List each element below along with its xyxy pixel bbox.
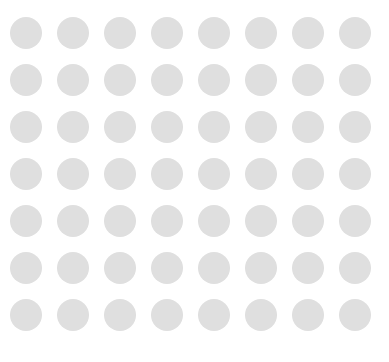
grid-circle [292, 252, 324, 284]
grid-circle [10, 158, 42, 190]
grid-circle [104, 205, 136, 237]
grid-circle [198, 64, 230, 96]
grid-circle [339, 252, 371, 284]
grid-circle [198, 252, 230, 284]
grid-circle [57, 64, 89, 96]
grid-circle [151, 299, 183, 331]
grid-circle [339, 64, 371, 96]
grid-circle [151, 111, 183, 143]
grid-circle [57, 205, 89, 237]
grid-circle [339, 17, 371, 49]
circle-grid-canvas [0, 0, 389, 362]
grid-circle [292, 205, 324, 237]
grid-circle [104, 17, 136, 49]
grid-circle [245, 299, 277, 331]
grid-circle [245, 205, 277, 237]
grid-circle [292, 158, 324, 190]
grid-circle [10, 64, 42, 96]
grid-circle [245, 158, 277, 190]
grid-circle [151, 64, 183, 96]
grid-circle [198, 158, 230, 190]
grid-circle [245, 64, 277, 96]
grid-circle [151, 252, 183, 284]
grid-circle [245, 252, 277, 284]
grid-circle [151, 17, 183, 49]
grid-circle [57, 158, 89, 190]
grid-circle [339, 205, 371, 237]
grid-circle [292, 299, 324, 331]
grid-circle [57, 299, 89, 331]
grid-circle [339, 299, 371, 331]
grid-circle [57, 111, 89, 143]
grid-circle [198, 111, 230, 143]
grid-circle [10, 299, 42, 331]
grid-circle [104, 252, 136, 284]
grid-circle [10, 252, 42, 284]
grid-circle [104, 64, 136, 96]
grid-circle [339, 111, 371, 143]
grid-circle [10, 205, 42, 237]
grid-circle [104, 299, 136, 331]
grid-circle [198, 17, 230, 49]
grid-circle [104, 111, 136, 143]
grid-circle [292, 111, 324, 143]
grid-circle [198, 299, 230, 331]
grid-circle [245, 17, 277, 49]
grid-circle [10, 17, 42, 49]
grid-circle [245, 111, 277, 143]
grid-circle [151, 158, 183, 190]
grid-circle [151, 205, 183, 237]
grid-circle [57, 252, 89, 284]
grid-circle [339, 158, 371, 190]
grid-circle [198, 205, 230, 237]
grid-circle [10, 111, 42, 143]
grid-circle [292, 17, 324, 49]
grid-circle [57, 17, 89, 49]
grid-circle [104, 158, 136, 190]
grid-circle [292, 64, 324, 96]
